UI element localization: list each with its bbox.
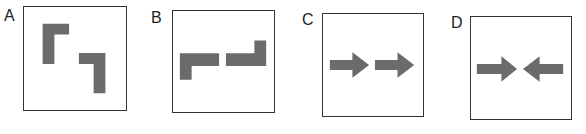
panel-b-label: B xyxy=(151,10,162,26)
panel-d-label: D xyxy=(451,15,463,31)
bent-bars-icon xyxy=(173,11,274,112)
panel-a-box xyxy=(23,6,127,111)
panel-c-label: C xyxy=(302,12,314,28)
corner-brackets-icon xyxy=(24,7,126,110)
panel-b-box xyxy=(172,10,275,113)
panel-c-box xyxy=(322,13,424,117)
converging-arrows-icon xyxy=(471,17,571,119)
panel-d-box xyxy=(470,16,572,120)
right-arrows-icon xyxy=(323,14,423,116)
panel-a-label: A xyxy=(4,8,15,24)
